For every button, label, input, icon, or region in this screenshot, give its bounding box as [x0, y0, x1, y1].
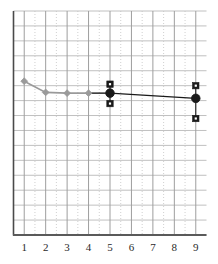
chart-plot-area — [0, 0, 218, 264]
major-vertical-gridlines — [24, 11, 196, 235]
x-tick-label: 8 — [166, 241, 182, 253]
data-point-marker-circle — [191, 94, 200, 103]
data-point-marker-diamond — [21, 78, 28, 85]
x-tick-label: 3 — [59, 241, 75, 253]
x-tick-label: 5 — [102, 241, 118, 253]
series-line-gray — [24, 81, 88, 93]
data-point-marker-diamond — [85, 90, 92, 97]
x-tick-label: 2 — [38, 241, 54, 253]
data-point-marker-diamond — [64, 90, 71, 97]
error-bar-marker-inner — [109, 83, 111, 85]
chart-container: 123456789 — [0, 0, 218, 264]
x-tick-label: 1 — [16, 241, 32, 253]
error-bar-marker-inner — [109, 102, 111, 104]
data-point-marker-circle — [106, 89, 115, 98]
error-bar-marker-inner — [195, 85, 197, 87]
x-tick-label: 7 — [145, 241, 161, 253]
x-tick-label: 6 — [123, 241, 139, 253]
x-tick-label: 4 — [81, 241, 97, 253]
x-tick-label: 9 — [188, 241, 204, 253]
data-point-marker-diamond — [42, 89, 49, 96]
error-bar-marker-inner — [195, 117, 197, 119]
